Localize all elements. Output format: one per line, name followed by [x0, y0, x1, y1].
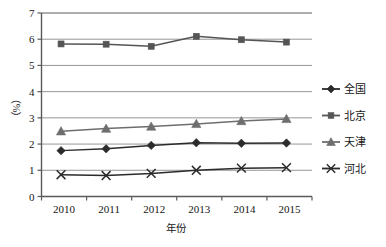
y-tick-label: 2: [29, 138, 35, 150]
data-point-square: [238, 37, 244, 43]
y-tick-label: 6: [29, 33, 35, 45]
x-tick-label: 2013: [188, 203, 211, 215]
data-point-square: [103, 41, 109, 47]
legend-label: 天津: [344, 136, 366, 148]
y-tick-label: 1: [29, 164, 35, 176]
y-tick-label: 3: [29, 112, 35, 124]
x-tick-label: 2014: [233, 203, 256, 215]
data-point-square: [193, 33, 199, 39]
line-chart: 01234567 201020112012201320142015 （%） 年份…: [0, 0, 386, 247]
legend-label: 河北: [344, 163, 366, 175]
chart-canvas: 01234567 201020112012201320142015 （%） 年份…: [0, 0, 386, 247]
data-point-square: [328, 113, 334, 119]
x-tick-label: 2011: [98, 203, 120, 215]
y-tick-label: 4: [29, 86, 35, 98]
x-axis-title-text: 年份: [166, 222, 187, 234]
legend-label: 全国: [344, 82, 366, 95]
y-tick-label: 0: [29, 191, 35, 203]
y-axis-title-text: （%）: [11, 94, 22, 123]
y-axis-title: （%）: [11, 94, 22, 123]
data-point-square: [283, 39, 289, 45]
legend-label: 北京: [344, 109, 366, 122]
x-tick-label: 2012: [143, 203, 165, 215]
data-point-square: [58, 41, 64, 47]
y-tick-label: 5: [29, 59, 35, 71]
y-tick-label: 7: [29, 7, 35, 19]
x-axis-title: 年份: [166, 222, 187, 234]
x-tick-label: 2015: [278, 203, 301, 215]
x-tick-label: 2010: [53, 203, 76, 215]
data-point-square: [148, 43, 154, 49]
